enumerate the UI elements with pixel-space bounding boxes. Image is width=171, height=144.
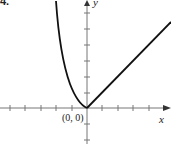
problem-number: 4. xyxy=(0,0,9,7)
y-axis-label: y xyxy=(93,0,98,8)
x-axis-arrow-icon xyxy=(163,105,171,111)
y-axis-arrow-icon xyxy=(84,0,90,6)
function-graph xyxy=(0,0,171,144)
left-branch-curve xyxy=(56,1,87,108)
x-axis-label: x xyxy=(159,114,164,125)
origin-label: (0, 0) xyxy=(62,113,84,123)
right-branch-line xyxy=(87,22,171,108)
